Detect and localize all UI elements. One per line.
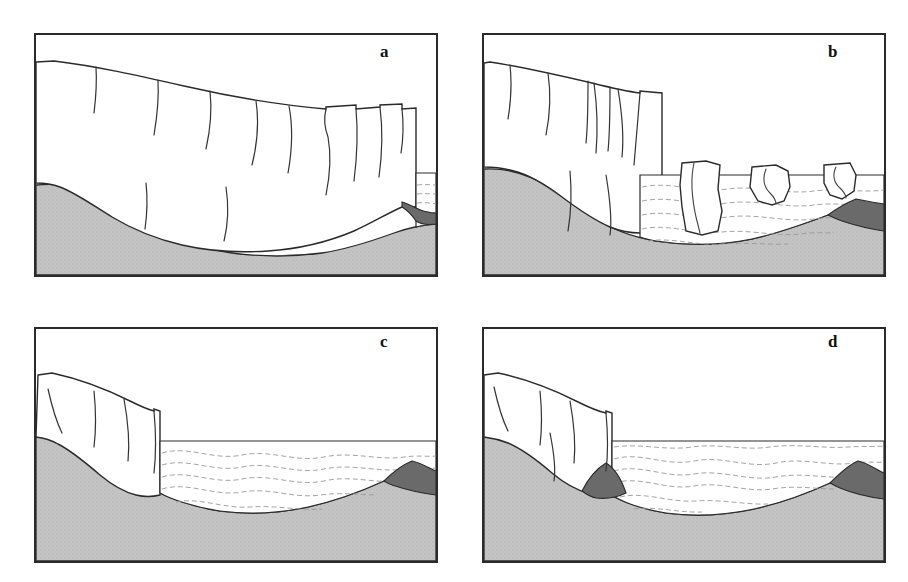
panel-a-label: a [380,43,389,60]
figure-container: a [0,0,908,582]
panel-a: a [34,33,438,277]
panel-c: c [34,327,438,563]
panel-d-label: d [828,333,837,350]
panel-b-label: b [828,43,837,60]
panel-c-label: c [380,333,388,350]
iceberg-1 [680,161,722,235]
panel-b-drawing [484,35,884,275]
panel-d: d [482,327,886,563]
panel-b: b [482,33,886,277]
panel-c-drawing [36,329,436,561]
panel-a-drawing [36,35,436,275]
panel-d-drawing [484,329,884,561]
iceberg-3 [824,163,856,199]
